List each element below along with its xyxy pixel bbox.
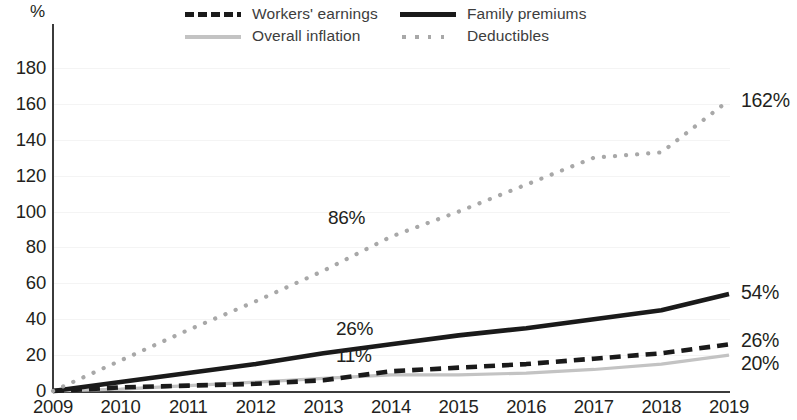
data-label-inline: 11% — [336, 345, 372, 367]
data-label-end: 162% — [741, 89, 790, 112]
series-line-deductibles — [53, 100, 729, 391]
data-label-end: 26% — [741, 329, 779, 352]
chart-series-layer — [0, 0, 797, 420]
data-label-end: 20% — [741, 352, 779, 375]
series-line-overall-inflation — [53, 355, 729, 391]
series-line-family-premiums — [53, 294, 729, 391]
data-label-inline: 26% — [336, 318, 373, 340]
data-label-inline: 86% — [328, 207, 365, 229]
line-chart: Workers' earnings Overall inflation Fami… — [0, 0, 797, 420]
data-label-end: 54% — [741, 281, 779, 304]
